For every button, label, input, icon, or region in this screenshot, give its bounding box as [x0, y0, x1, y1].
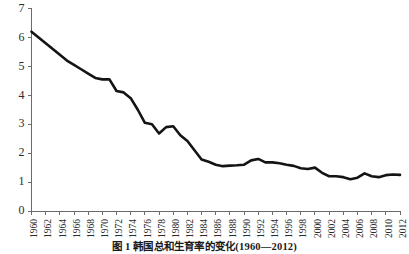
y-tick-label: 1 [19, 174, 25, 188]
y-tick-label: 4 [19, 88, 25, 102]
x-tick-label: 1994 [270, 219, 280, 238]
fertility-rate-line-chart: 76543210 1960196219641966196819701972197… [0, 0, 409, 254]
x-tick-label: 2008 [369, 219, 379, 238]
x-tick-label: 1996 [284, 219, 294, 238]
x-tick-label: 2010 [384, 219, 394, 238]
x-tick-label: 1990 [242, 219, 252, 238]
x-tick-label: 2012 [398, 219, 408, 238]
chart-plot-area: 76543210 1960196219641966196819701972197… [0, 0, 409, 254]
x-tick-label: 1986 [213, 219, 223, 238]
x-tick-label: 1960 [29, 219, 39, 238]
x-tick-label: 1980 [171, 219, 181, 238]
y-tick-label: 5 [19, 59, 25, 73]
y-tick-label: 0 [19, 203, 25, 217]
x-tick-label: 1978 [157, 219, 167, 238]
x-tick-label: 1982 [185, 219, 195, 238]
y-tick-label: 6 [19, 30, 25, 44]
x-tick-label: 1970 [100, 219, 110, 238]
x-tick-label: 1966 [72, 219, 82, 238]
x-tick-labels: 1960196219641966196819701972197419761978… [29, 219, 408, 238]
x-tick-label: 1992 [256, 219, 266, 238]
x-tick-label: 2006 [355, 219, 365, 238]
x-tick-label: 1968 [86, 219, 96, 238]
x-tick-label: 1976 [143, 219, 153, 238]
x-tick-label: 2002 [327, 219, 337, 238]
y-tick-label: 7 [19, 1, 25, 15]
x-tick-label: 1962 [43, 219, 53, 238]
x-tick-label: 1998 [298, 219, 308, 238]
figure-caption: 图 1 韩国总和生育率的变化(1960—2012) [0, 238, 409, 253]
x-tick-marks [32, 211, 401, 215]
y-tick-labels: 76543210 [19, 1, 25, 218]
y-tick-marks [28, 9, 32, 212]
figure-container: 76543210 1960196219641966196819701972197… [0, 0, 409, 254]
x-tick-label: 1984 [199, 219, 209, 238]
x-tick-label: 1974 [128, 219, 138, 238]
y-tick-label: 3 [19, 116, 25, 130]
fertility-rate-series-line [32, 32, 401, 180]
x-tick-label: 1964 [58, 219, 68, 238]
x-tick-label: 1972 [114, 219, 124, 238]
x-tick-label: 2004 [341, 219, 351, 238]
x-tick-label: 2000 [313, 219, 323, 238]
x-tick-label: 1988 [228, 219, 238, 238]
y-tick-label: 2 [19, 145, 25, 159]
